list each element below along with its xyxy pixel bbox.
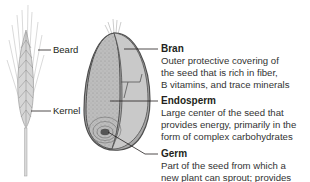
wheat-diagram-art [0, 0, 310, 182]
bran-description-line: the seed that is rich in fiber, [161, 67, 278, 79]
germ-description-line: new plant can sprout; provides [161, 172, 291, 182]
kernel-cross-section-illustration [84, 19, 158, 154]
bran-description-line: B vitamins, and trace minerals [161, 79, 290, 91]
germ-term: Germ [161, 148, 187, 160]
kernel-label: Kernel [53, 105, 80, 116]
endosperm-description-line: form of complex carbohydrates [161, 131, 293, 143]
bran-term: Bran [161, 43, 184, 55]
endosperm-description-line: provides energy, primarily in the [161, 119, 296, 131]
endosperm-term: Endosperm [161, 95, 216, 107]
endosperm-description-line: Large center of the seed that [161, 107, 284, 119]
bran-description-line: Outer protective covering of [161, 55, 279, 67]
wheat-stalk-illustration [7, 5, 51, 176]
beard-label: Beard [53, 44, 78, 55]
germ-description-line: Part of the seed from which a [161, 160, 286, 172]
